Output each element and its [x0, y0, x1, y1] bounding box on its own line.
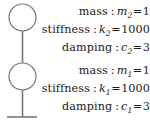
- param-separator-damping-2: :: [112, 41, 121, 54]
- parameter-block-mass-1: mass:m1=1 stiffness:k1=1000 damping:c1=3: [40, 64, 150, 117]
- param-label-mass-1: mass: [79, 64, 108, 77]
- param-separator-mass-1: :: [108, 64, 117, 77]
- param-label-stiffness-1: stiffness: [42, 82, 90, 95]
- param-symbol-stiffness-2: k: [99, 23, 106, 36]
- param-row-stiffness-1: stiffness:k1=1000: [40, 82, 150, 100]
- param-equals-stiffness-2: =: [111, 23, 121, 36]
- param-row-stiffness-2: stiffness:k2=1000: [40, 23, 150, 41]
- param-label-stiffness-2: stiffness: [42, 23, 90, 36]
- mass-1-circle: [9, 63, 36, 90]
- param-separator-mass-2: :: [108, 5, 117, 18]
- param-subscript-stiffness-1: 1: [106, 87, 111, 96]
- param-equals-mass-1: =: [132, 64, 142, 77]
- diagram-canvas: mass:m2=1 stiffness:k2=1000 damping:c2=3…: [0, 0, 150, 126]
- param-value-mass-2: 1: [143, 5, 150, 18]
- mass-spring-damper-schematic: [0, 0, 44, 126]
- param-value-mass-1: 1: [143, 64, 150, 77]
- param-equals-stiffness-1: =: [111, 82, 121, 95]
- param-equals-damping-2: =: [132, 41, 142, 54]
- param-value-damping-2: 3: [143, 41, 150, 54]
- param-row-damping-1: damping:c1=3: [40, 100, 150, 118]
- param-value-damping-1: 3: [143, 100, 150, 113]
- mass-2-circle: [9, 4, 36, 31]
- parameter-block-mass-2: mass:m2=1 stiffness:k2=1000 damping:c2=3: [40, 5, 150, 58]
- param-symbol-mass-1: m: [117, 64, 128, 77]
- param-row-mass-1: mass:m1=1: [40, 64, 150, 82]
- param-value-stiffness-1: 1000: [121, 82, 150, 95]
- param-label-damping-2: damping: [62, 41, 112, 54]
- param-value-stiffness-2: 1000: [121, 23, 150, 36]
- param-label-mass-2: mass: [79, 5, 108, 18]
- param-separator-stiffness-2: :: [90, 23, 99, 36]
- param-equals-mass-2: =: [132, 5, 142, 18]
- param-separator-damping-1: :: [112, 100, 121, 113]
- param-row-damping-2: damping:c2=3: [40, 41, 150, 59]
- param-separator-stiffness-1: :: [90, 82, 99, 95]
- param-subscript-stiffness-2: 2: [106, 28, 111, 37]
- param-symbol-stiffness-1: k: [99, 82, 106, 95]
- param-label-damping-1: damping: [62, 100, 112, 113]
- param-equals-damping-1: =: [132, 100, 142, 113]
- param-symbol-mass-2: m: [117, 5, 128, 18]
- param-row-mass-2: mass:m2=1: [40, 5, 150, 23]
